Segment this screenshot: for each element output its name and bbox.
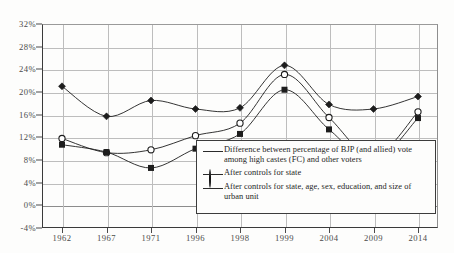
y-axis-tick-label: 20%	[0, 87, 36, 97]
x-axis-tick-label: 1971	[141, 233, 160, 243]
filled-diamond-marker	[202, 146, 224, 157]
y-axis-tick-label: 8%	[0, 155, 36, 165]
legend-item-label: Difference between percentage of BJP (an…	[224, 145, 430, 166]
x-axis-tick	[62, 228, 63, 233]
x-axis-tick	[151, 228, 152, 233]
legend-item: After controls for state	[202, 168, 430, 180]
y-axis-tick-label: 28%	[0, 42, 36, 52]
legend-item: After controls for state, age, sex, educ…	[202, 182, 430, 203]
x-axis-tick	[285, 228, 286, 233]
x-axis-tick-label: 1998	[230, 233, 249, 243]
x-axis-tick-label: 2009	[364, 233, 383, 243]
x-axis-tick	[196, 228, 197, 233]
y-axis-tick-label: 0%	[0, 200, 36, 210]
x-axis-tick-label: 1967	[97, 233, 116, 243]
y-axis-tick-label: -4%	[0, 223, 36, 233]
x-axis-tick	[374, 228, 375, 233]
x-axis-tick-label: 1962	[52, 233, 71, 243]
gridline-horizontal	[43, 48, 437, 49]
legend-item-label: After controls for state	[224, 168, 301, 178]
x-axis-tick-label: 1996	[186, 233, 205, 243]
x-axis-tick	[329, 228, 330, 233]
gridline-horizontal	[43, 116, 437, 117]
open-circle-marker	[202, 169, 224, 180]
gridline-vertical	[63, 25, 64, 227]
gridline-vertical	[108, 25, 109, 227]
x-axis-tick	[240, 228, 241, 233]
gridline-vertical	[152, 25, 153, 227]
x-axis-tick-label: 2014	[408, 233, 427, 243]
x-axis-tick-label: 1999	[275, 233, 294, 243]
x-axis-tick	[418, 228, 419, 233]
y-axis-tick-label: 12%	[0, 132, 36, 142]
gridline-horizontal	[43, 93, 437, 94]
legend-item-label: After controls for state, age, sex, educ…	[224, 182, 430, 203]
x-axis-tick-label: 2004	[319, 233, 338, 243]
legend: Difference between percentage of BJP (an…	[196, 140, 436, 214]
y-axis-tick-label: 24%	[0, 64, 36, 74]
gridline-horizontal	[43, 70, 437, 71]
y-axis-tick-label: 32%	[0, 19, 36, 29]
y-axis-tick-label: 4%	[0, 178, 36, 188]
x-axis-tick	[107, 228, 108, 233]
chart-figure: 32%28%24%20%16%12%8%4%0%-4% 196219671971…	[0, 0, 454, 253]
legend-item: Difference between percentage of BJP (an…	[202, 145, 430, 166]
y-axis-tick-label: 16%	[0, 110, 36, 120]
filled-square-marker	[202, 183, 224, 194]
